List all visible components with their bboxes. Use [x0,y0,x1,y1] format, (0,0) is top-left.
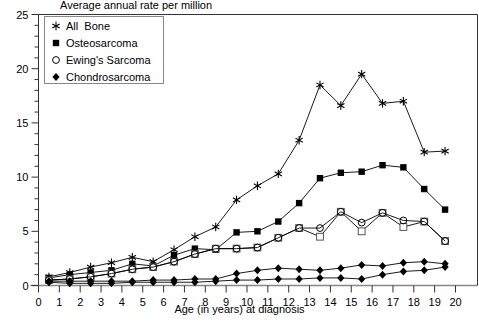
data-point [400,224,407,231]
legend-item-chondrosarcoma[interactable]: Chondrosarcoma [45,68,163,85]
filled-square-icon [49,37,63,49]
data-point [254,266,261,274]
legend-item-all-bone[interactable]: All Bone [45,17,163,34]
legend-item-label: Chondrosarcoma [66,71,150,83]
y-tick-label: 25 [16,9,28,21]
data-point [296,200,302,206]
data-point [337,264,344,272]
data-point [358,275,365,283]
data-point [254,276,261,284]
legend-item-label: Osteosarcoma [66,37,138,49]
data-point [275,264,282,272]
legend-item-label: Ewing's Sarcoma [66,54,151,66]
data-point [400,267,407,275]
series-layer [45,70,448,287]
data-point [317,175,323,181]
data-point [379,271,386,279]
data-point [233,270,240,278]
series-filled-square [46,162,449,281]
data-point [171,252,177,258]
star-icon [49,20,63,32]
data-point [421,266,428,274]
data-point [233,229,239,235]
data-point [379,162,385,168]
y-tick-label: 15 [16,117,28,129]
data-point [317,233,324,240]
data-point [400,164,406,170]
data-point [296,275,303,283]
legend-item-ewing-s-sarcoma[interactable]: Ewing's Sarcoma [45,51,163,68]
chart-legend: All BoneOsteosarcomaEwing's SarcomaChond… [44,16,164,84]
y-tick-label: 10 [16,171,28,183]
y-tick-label: 20 [16,63,28,75]
data-point [358,168,364,174]
data-point [275,218,281,224]
data-point [129,277,136,285]
x-axis-title: Age (in years) at diagnosis [0,303,479,315]
data-point [358,261,365,269]
chart-root: Average annual rate per million 05101520… [0,0,479,322]
data-point [421,186,427,192]
data-point [358,228,365,235]
y-tick-label: 0 [22,280,28,292]
data-point [53,56,60,63]
open-circle-icon [49,54,63,66]
series-filled-diamond [45,263,448,287]
series-filled-diamond [45,258,448,286]
data-point [421,258,428,266]
data-point [316,274,323,282]
data-point [442,206,448,212]
data-point [275,275,282,283]
data-point [338,170,344,176]
data-point [52,73,59,81]
data-point [254,228,260,234]
data-point [400,259,407,267]
filled-diamond-icon [49,71,63,83]
series-star [45,70,448,281]
data-point [337,274,344,282]
data-point [53,39,59,45]
legend-item-osteosarcoma[interactable]: Osteosarcoma [45,34,163,51]
legend-item-label: All Bone [66,20,110,32]
data-point [296,265,303,273]
y-tick-label: 5 [22,225,28,237]
data-point [379,262,386,270]
data-point [316,266,323,274]
